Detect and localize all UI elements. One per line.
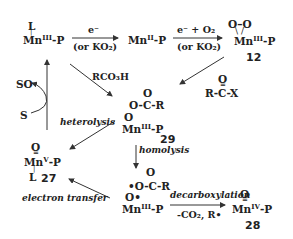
acyl-halide: R-C-X [205, 88, 238, 99]
radical-carbonyl-o: O [146, 167, 155, 178]
radical-species: MnIII-P [122, 203, 163, 215]
decarboxylation-label: decarboxylation [170, 191, 250, 200]
acyl-29-carbonyl-o: O [143, 88, 152, 99]
oxo-28-species: MnIV-P [232, 203, 272, 215]
radical-link-o: O• [125, 192, 141, 203]
rco3h-label: RCO₃H [92, 72, 129, 82]
mn3-l-species: MnIII-P [23, 34, 64, 46]
arrow1-top-label: e⁻ [88, 25, 99, 35]
substrate-s: S [20, 110, 28, 121]
radical-chain: •O-C-R [128, 181, 170, 192]
arrow2-bottom-label: (or KO₂) [177, 42, 221, 52]
homolysis-label: homolysis [139, 146, 189, 155]
acyl-29-link-o: O [124, 112, 133, 123]
double-bond: = [33, 149, 39, 156]
acyl-29-chain: O-C-R [129, 100, 164, 111]
heterolysis-label: heterolysis [60, 118, 115, 127]
arrow2-top-label: e⁻ + O₂ [177, 25, 215, 35]
peroxo-species: MnIII-P [234, 35, 275, 47]
compound-27-label: 27 [41, 173, 56, 184]
double-bond: = [242, 196, 248, 203]
product-so: SO [16, 79, 33, 90]
decarboxylation-bottom-label: -CO₂, R• [177, 210, 222, 220]
compound-12-label: 12 [246, 52, 261, 63]
mn2-species: MnII-P [128, 34, 166, 46]
oxo-27-species: MnV-P [24, 156, 61, 168]
compound-29-label: 29 [160, 134, 175, 145]
electron-transfer-label: electron transfer [22, 194, 108, 203]
arrow1-bottom-label: (or KO₂) [73, 42, 117, 52]
compound-28-label: 28 [245, 220, 260, 231]
acyl-29-species: MnIII-P [122, 123, 163, 135]
oxo-27-ligand: L [29, 172, 36, 183]
